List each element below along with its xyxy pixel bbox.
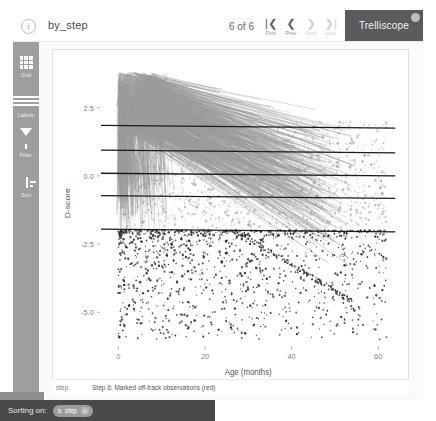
sidebar-item-labels[interactable]: Labels: [13, 96, 39, 128]
sidebar-item-grid[interactable]: Grid: [13, 56, 39, 88]
pager-prev-button[interactable]: ❮ Prev: [281, 18, 301, 37]
prev-icon: ❮: [281, 18, 301, 30]
svg-text:60: 60: [374, 351, 382, 360]
pager-next-button[interactable]: ❯ Next: [301, 18, 321, 37]
info-icon[interactable]: i: [21, 19, 36, 34]
sort-chip-label: step: [65, 407, 77, 414]
sidebar-item-labels-label: Labels: [13, 112, 39, 118]
remove-sort-icon[interactable]: ×: [81, 407, 89, 415]
panel-label-row: step Step 6: Marked off-track observatio…: [52, 379, 409, 394]
svg-text:40: 40: [287, 351, 295, 360]
trelliscope-app: i by_step 6 of 6 |❮ First ❮ Prev ❯ Next …: [0, 0, 436, 421]
svg-text:D-score: D-score: [63, 188, 72, 218]
sorting-on-label: Sorting on:: [8, 406, 47, 415]
status-bar: Sorting on: ⇅ step ×: [0, 400, 215, 421]
svg-text:-2.5: -2.5: [81, 240, 94, 249]
panel-label-value: Step 6: Marked off-track observations (r…: [92, 384, 215, 391]
sidebar-item-filter[interactable]: Filter: [13, 136, 39, 168]
funnel-icon: [13, 136, 39, 151]
pager-first-label: First: [261, 30, 281, 37]
top-bar: i by_step 6 of 6 |❮ First ❮ Prev ❯ Next …: [13, 10, 423, 42]
panel-label-key: step: [52, 384, 92, 391]
pager-next-label: Next: [301, 30, 321, 37]
display-panel[interactable]: 02040602.50.0-2.5-5.0Age (months)D-score: [52, 49, 409, 394]
svg-text:-5.0: -5.0: [81, 308, 94, 317]
svg-text:Age (months): Age (months): [225, 367, 272, 376]
sort-icon: [13, 176, 39, 191]
sidebar-item-sort-label: Sort: [13, 192, 39, 198]
grid-icon: [13, 56, 39, 71]
svg-text:0.0: 0.0: [84, 171, 94, 180]
sidebar-item-sort[interactable]: Sort: [13, 176, 39, 208]
first-icon: |❮: [261, 18, 281, 30]
sort-chip-step[interactable]: ⇅ step ×: [53, 405, 93, 417]
svg-text:0: 0: [116, 351, 120, 360]
pager: 6 of 6 |❮ First ❮ Prev ❯ Next ❯| Last: [229, 15, 341, 43]
sort-ascending-icon: ⇅: [57, 408, 62, 414]
plot-svg: 02040602.50.0-2.5-5.0Age (months)D-score: [53, 50, 408, 393]
pager-first-button[interactable]: |❮ First: [261, 18, 281, 37]
statusbar-tab: [0, 392, 44, 400]
pager-prev-label: Prev: [281, 30, 301, 37]
pager-last-label: Last: [321, 30, 341, 37]
next-icon: ❯: [301, 18, 321, 30]
last-icon: ❯|: [321, 18, 341, 30]
sidebar: Grid Labels Filter Sort: [13, 42, 39, 400]
svg-text:20: 20: [201, 351, 209, 360]
svg-text:2.5: 2.5: [84, 103, 94, 112]
brand-menu-icon[interactable]: [411, 13, 420, 22]
sidebar-item-grid-label: Grid: [13, 72, 39, 78]
pager-count: 6 of 6: [229, 21, 254, 32]
labels-icon: [13, 96, 39, 111]
page-title: by_step: [48, 19, 88, 31]
pager-last-button[interactable]: ❯| Last: [321, 18, 341, 37]
scatter-plot: 02040602.50.0-2.5-5.0Age (months)D-score: [53, 50, 408, 393]
panel-area: 02040602.50.0-2.5-5.0Age (months)D-score…: [39, 42, 423, 400]
